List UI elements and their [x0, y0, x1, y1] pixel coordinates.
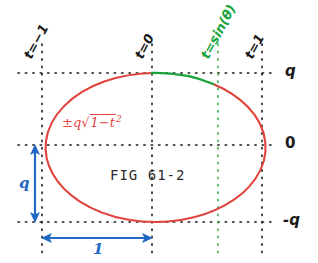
- figure-caption: FIG 61-2: [110, 168, 185, 182]
- ellipse-curve: [46, 73, 266, 222]
- curve-formula: ±q√1−t2: [62, 115, 122, 129]
- measure-label-one: 1: [93, 242, 103, 257]
- axis-label-zero: 0: [285, 136, 295, 151]
- figure-graphics: [0, 0, 318, 263]
- axis-label-q-top: q: [285, 64, 296, 79]
- curve-formula-radicand: 1−t: [90, 114, 116, 130]
- curve-green-branch: [152, 73, 213, 84]
- vertical-gridlines: [42, 44, 262, 256]
- measure-vertical-q: [30, 144, 40, 223]
- curve-formula-exponent: 2: [116, 114, 122, 124]
- curve-formula-prefix: ±q: [62, 115, 81, 130]
- axis-label-negative-q: -q: [283, 213, 300, 228]
- curve-red-branch: [46, 73, 266, 222]
- figure-canvas: q 0 -q t=−1 t=0 t=sin(θ) t=1 ±q√1−t2 FIG…: [0, 0, 318, 263]
- radical-icon: √: [81, 115, 89, 130]
- measure-label-q: q: [19, 176, 30, 191]
